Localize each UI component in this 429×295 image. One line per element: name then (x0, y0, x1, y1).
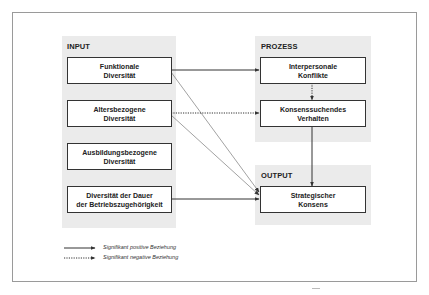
node-functional-diversity: Funktionale Diversität (67, 57, 172, 84)
node-interpersonal-conflicts: Interpersonale Konflikte (260, 57, 366, 84)
page-mark (312, 288, 320, 292)
connection-lines (0, 0, 429, 295)
node-strategic-consensus: Strategischer Konsens (260, 186, 366, 213)
node-consensus-seeking: Konsenssuchendes Verhalten (260, 100, 366, 127)
legend-negative-label: Signifikant negative Beziehung (103, 254, 178, 260)
node-tenure-diversity: Diversität der Dauer der Betriebszugehör… (67, 186, 172, 213)
legend-positive-label: Signifikant positive Beziehung (103, 244, 176, 250)
edge-age-to-consensus (171, 115, 259, 195)
edge-functional-to-consensus (171, 72, 259, 192)
node-education-diversity: Ausbildungsbezogene Diversität (67, 143, 172, 170)
node-age-diversity: Altersbezogene Diversität (67, 100, 172, 127)
